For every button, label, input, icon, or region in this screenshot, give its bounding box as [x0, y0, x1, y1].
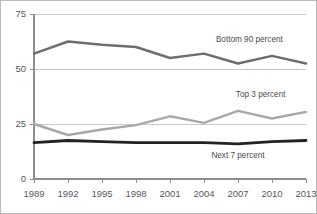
series-label: Top 3 percent	[236, 90, 286, 99]
x-tick-label: 2004	[193, 188, 214, 199]
x-axis-tick-labels: 198919921995199820012004200720102013	[23, 188, 316, 199]
y-tick-label: 50	[15, 63, 26, 74]
x-tick-label: 2013	[295, 188, 316, 199]
line-chart: 7550250 19891992199519982001200420072010…	[1, 1, 317, 214]
x-tick-label: 2007	[227, 188, 248, 199]
x-tick-label: 2010	[261, 188, 282, 199]
series-label: Next 7 percent	[211, 151, 265, 160]
x-tick-label: 1998	[125, 188, 146, 199]
y-tick-label: 75	[15, 8, 26, 19]
y-tick-label: 25	[15, 118, 26, 129]
series-line	[34, 111, 306, 135]
series-line	[34, 141, 306, 144]
x-tick-label: 1992	[57, 188, 78, 199]
x-tick-label: 2001	[159, 188, 180, 199]
chart-container: 7550250 19891992199519982001200420072010…	[0, 0, 317, 214]
series-label: Bottom 90 percent	[216, 35, 284, 44]
x-tick-label: 1995	[91, 188, 112, 199]
series-line	[34, 42, 306, 64]
x-tick-label: 1989	[23, 188, 44, 199]
y-tick-label: 0	[21, 173, 26, 184]
y-axis-tick-labels: 7550250	[15, 8, 26, 184]
